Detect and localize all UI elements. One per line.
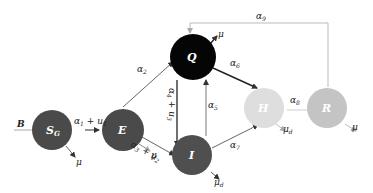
label-a5: α5 [208,100,218,111]
node-r: R [307,88,347,128]
label-a6: α6 [230,58,240,69]
compartment-diagram: SG E Q I H R B α1 + u1 α2 α3 + u2 α4 + u… [0,0,373,193]
node-i-label: I [188,149,195,162]
node-r-label: R [321,102,331,115]
edge-q-to-h [213,68,257,88]
node-e-label: E [117,124,127,137]
outflow-sg [66,146,75,157]
label-a1-u1: α1 + u1 [74,116,107,127]
label-a8: α8 [290,95,300,106]
label-a7: α7 [230,140,240,151]
label-b: B [16,119,25,129]
label-a3-u2: α3 + u2 [129,139,163,165]
label-a4-u3: α4 + u3 [166,88,177,121]
label-mu-sg: μ [76,157,82,167]
node-q: Q [170,34,216,80]
label-mu-e: μ [151,150,157,160]
label-a2: α2 [137,64,147,75]
label-a9: α9 [256,11,266,22]
edge-e-to-q [123,62,173,107]
node-h-label: H [257,102,269,115]
label-mu-r: μ [352,122,358,132]
label-mud-i: μd [214,177,224,188]
label-mu-q: μ [218,29,224,39]
node-h: H [244,88,284,128]
node-i: I [172,135,212,175]
node-q-label: Q [187,51,197,64]
label-mud-h: μd [283,124,293,135]
node-sg-label: S [46,124,54,137]
node-sg: SG [32,110,72,150]
